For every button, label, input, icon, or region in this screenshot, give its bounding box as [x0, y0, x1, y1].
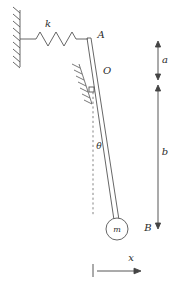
label-point-b: B — [143, 222, 151, 233]
label-point-a: A — [96, 29, 104, 40]
label-pivot-o: O — [103, 65, 111, 76]
label-spring-stiffness: k — [45, 18, 51, 29]
coil-spring — [20, 32, 88, 46]
hinge-support-hatched — [72, 64, 92, 104]
fixed-wall-hatched — [13, 7, 20, 68]
dimension-arrow-b — [155, 85, 160, 229]
label-distance-b: b — [162, 146, 168, 157]
dimension-arrow-a — [155, 41, 160, 80]
x-axis-arrow — [93, 264, 141, 277]
pivot-marker — [89, 87, 94, 92]
physics-diagram-figure: k A O θ m B a b x — [0, 0, 182, 292]
label-angle-theta: θ — [96, 141, 102, 151]
label-x-axis: x — [128, 252, 134, 263]
diagram-canvas: k A O θ m B a b x — [0, 0, 182, 292]
label-distance-a: a — [162, 54, 168, 65]
label-bob-mass: m — [113, 225, 121, 234]
